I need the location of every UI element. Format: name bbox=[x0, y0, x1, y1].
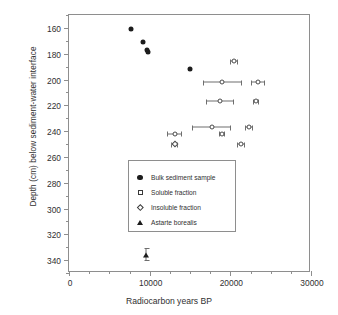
y-tick-220: 220 bbox=[64, 105, 69, 106]
y-tick-minor bbox=[66, 144, 69, 145]
y-axis-title: Depth (cm) below sediment-water interfac… bbox=[29, 2, 38, 252]
x-tick-minor bbox=[291, 271, 292, 274]
data-point bbox=[209, 125, 214, 130]
legend-label: Insoluble fraction bbox=[151, 204, 201, 211]
data-point bbox=[172, 131, 177, 136]
y-tick-label: 220 bbox=[47, 101, 61, 111]
x-tick-minor bbox=[190, 271, 191, 274]
data-point bbox=[255, 80, 260, 85]
y-tick-label: 300 bbox=[47, 205, 61, 215]
legend-item-bulk-sediment-sample[interactable]: Bulk sediment sample bbox=[129, 170, 235, 185]
radiocarbon-depth-scatter-chart: Depth (cm) below sediment-water interfac… bbox=[0, 0, 338, 315]
legend-item-astarte-borealis[interactable]: Astarte borealis bbox=[129, 215, 235, 230]
y-tick-label: 180 bbox=[47, 50, 61, 60]
data-point bbox=[143, 252, 149, 257]
x-tick-label: 30000 bbox=[300, 278, 323, 288]
y-tick-minor bbox=[66, 67, 69, 68]
y-tick-label: 320 bbox=[47, 230, 61, 240]
y-tick-minor bbox=[66, 247, 69, 248]
x-tick-20000: 20000 bbox=[230, 271, 231, 276]
legend-item-soluble-fraction[interactable]: Soluble fraction bbox=[129, 185, 235, 200]
x-tick-label: 0 bbox=[68, 278, 73, 288]
y-tick-minor bbox=[66, 118, 69, 119]
y-tick-minor bbox=[66, 170, 69, 171]
plot-area: 160180200220240260280300320340 010000200… bbox=[68, 14, 310, 272]
open-circle-icon bbox=[129, 190, 151, 195]
data-point bbox=[141, 40, 146, 45]
x-tick-10000: 10000 bbox=[150, 271, 151, 276]
data-point bbox=[238, 142, 243, 147]
legend-label: Bulk sediment sample bbox=[151, 174, 216, 181]
data-point bbox=[246, 125, 251, 130]
y-tick-280: 280 bbox=[64, 183, 69, 184]
y-tick-minor bbox=[66, 196, 69, 197]
data-point bbox=[231, 59, 236, 64]
y-tick-minor bbox=[66, 221, 69, 222]
data-point bbox=[220, 80, 225, 85]
data-point bbox=[254, 99, 259, 104]
y-tick-180: 180 bbox=[64, 54, 69, 55]
x-tick-minor bbox=[89, 271, 90, 274]
x-tick-30000: 30000 bbox=[311, 271, 312, 276]
data-point bbox=[146, 50, 151, 55]
open-diamond-icon bbox=[129, 205, 151, 210]
y-tick-label: 260 bbox=[47, 153, 61, 163]
y-tick-340: 340 bbox=[64, 260, 69, 261]
legend-label: Astarte borealis bbox=[151, 219, 197, 226]
x-tick-minor bbox=[109, 271, 110, 274]
data-point bbox=[217, 99, 222, 104]
x-tick-minor bbox=[251, 271, 252, 274]
filled-circle-icon bbox=[129, 175, 151, 181]
legend-label: Soluble fraction bbox=[151, 189, 196, 196]
x-axis-title: Radiocarbon years BP bbox=[0, 296, 338, 306]
x-tick-minor bbox=[170, 271, 171, 274]
data-point bbox=[188, 67, 193, 72]
y-tick-240: 240 bbox=[64, 131, 69, 132]
y-tick-minor bbox=[66, 92, 69, 93]
y-tick-label: 200 bbox=[47, 76, 61, 86]
y-tick-300: 300 bbox=[64, 209, 69, 210]
y-tick-200: 200 bbox=[64, 80, 69, 81]
x-tick-minor bbox=[271, 271, 272, 274]
x-tick-0: 0 bbox=[69, 271, 70, 276]
y-tick-320: 320 bbox=[64, 234, 69, 235]
y-tick-minor bbox=[66, 15, 69, 16]
y-tick-label: 280 bbox=[47, 179, 61, 189]
y-tick-label: 240 bbox=[47, 127, 61, 137]
y-tick-160: 160 bbox=[64, 28, 69, 29]
x-tick-label: 20000 bbox=[220, 278, 243, 288]
x-tick-label: 10000 bbox=[139, 278, 162, 288]
filled-triangle-icon bbox=[129, 220, 151, 225]
y-tick-label: 160 bbox=[47, 24, 61, 34]
legend-item-insoluble-fraction[interactable]: Insoluble fraction bbox=[129, 200, 235, 215]
y-tick-label: 340 bbox=[47, 256, 61, 266]
data-point bbox=[129, 27, 134, 32]
y-tick-minor bbox=[66, 41, 69, 42]
data-point bbox=[220, 131, 225, 136]
chart-legend: Bulk sediment sampleSoluble fractionInso… bbox=[128, 160, 236, 232]
y-tick-260: 260 bbox=[64, 157, 69, 158]
x-tick-minor bbox=[210, 271, 211, 274]
x-tick-minor bbox=[130, 271, 131, 274]
